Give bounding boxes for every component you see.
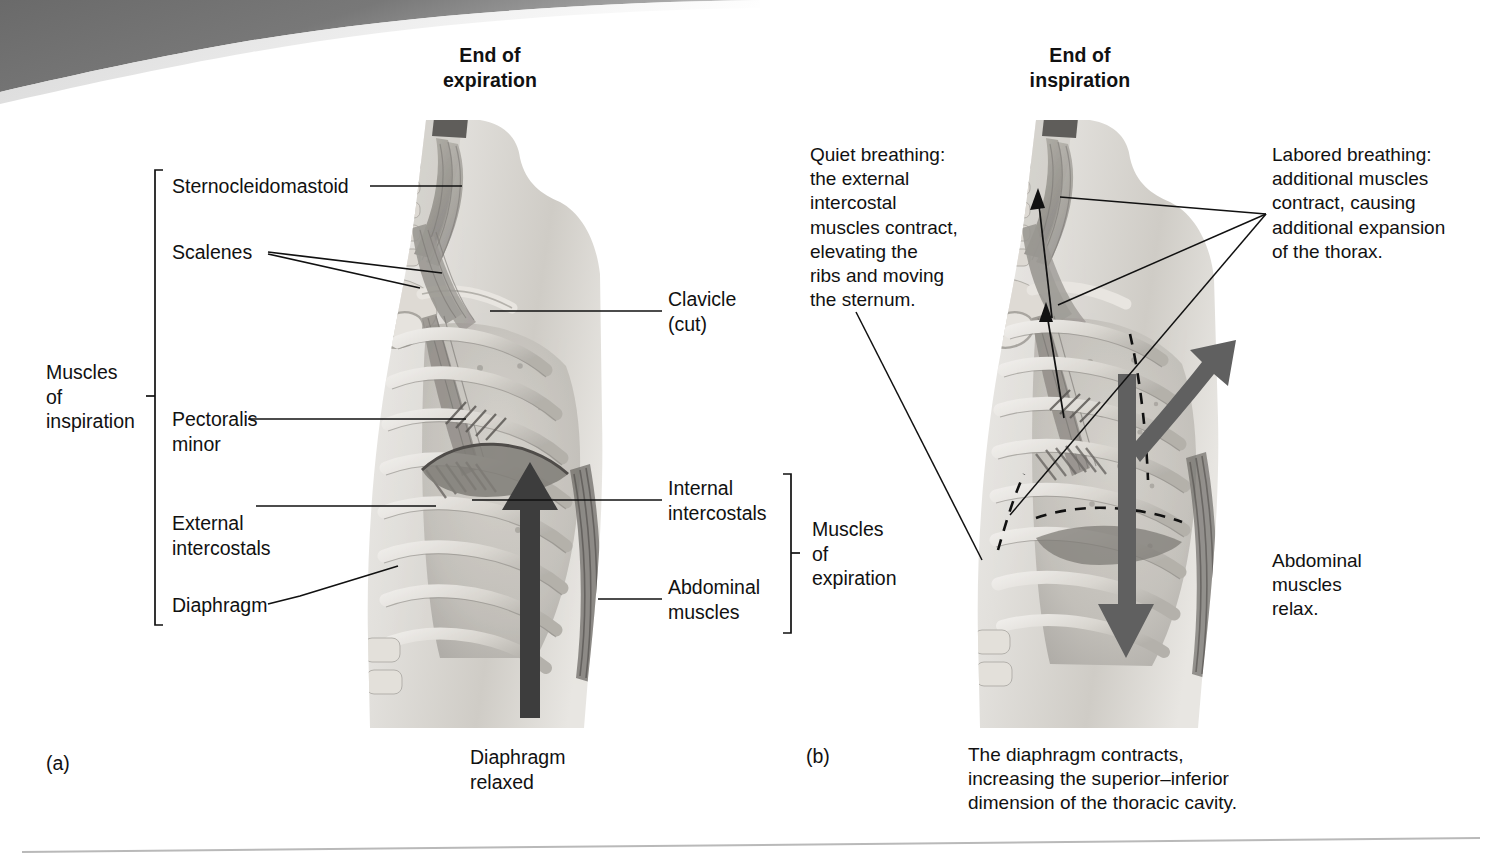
- label-sternocleidomastoid: Sternocleidomastoid: [172, 174, 349, 199]
- bracket-label-muscles-of-expiration: Muscles of expiration: [812, 517, 932, 591]
- label-diaphragm: Diaphragm: [172, 593, 267, 618]
- text-abdominal-muscles-relax: Abdominal muscles relax.: [1272, 549, 1472, 622]
- label-pectoralis-minor: Pectoralis minor: [172, 407, 258, 456]
- panel-b-annotations: [760, 0, 1509, 800]
- page-footer-rule: [0, 820, 1509, 860]
- label-scalenes: Scalenes: [172, 240, 252, 265]
- text-labored-breathing: Labored breathing: additional muscles co…: [1272, 143, 1509, 264]
- text-quiet-breathing: Quiet breathing: the external intercosta…: [810, 143, 990, 312]
- label-external-intercostals: External intercostals: [172, 511, 271, 560]
- caption-diaphragm-relaxed: Diaphragm relaxed: [470, 745, 565, 794]
- label-clavicle-cut: Clavicle (cut): [668, 287, 736, 336]
- bracket-label-muscles-of-inspiration: Muscles of inspiration: [46, 360, 156, 434]
- label-abdominal-muscles: Abdominal muscles: [668, 575, 760, 624]
- panel-a-letter: (a): [46, 752, 70, 775]
- figure-canvas: End of expiration End of inspiration: [0, 0, 1509, 866]
- caption-diaphragm-contracts: The diaphragm contracts, increasing the …: [968, 743, 1298, 816]
- panel-b-letter: (b): [806, 745, 830, 768]
- label-internal-intercostals: Internal intercostals: [668, 476, 767, 525]
